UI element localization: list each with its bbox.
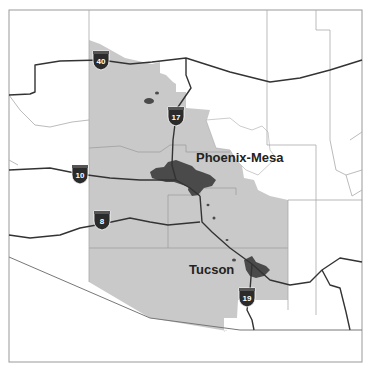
city-label-tucson: Tucson: [189, 262, 234, 277]
shield-i10-number: 10: [76, 171, 85, 180]
shield-i10: 10: [72, 165, 88, 184]
shield-i40: 40: [93, 51, 109, 70]
map: 40 17 10 8 19 Phoenix-Mesa Tucson: [0, 0, 373, 375]
shield-i8: 8: [94, 211, 110, 230]
shield-i17: 17: [168, 107, 184, 126]
city-label-phoenix-mesa: Phoenix-Mesa: [196, 150, 284, 165]
shield-i19-number: 19: [243, 294, 252, 303]
shield-i40-number: 40: [97, 57, 106, 66]
shield-i8-number: 8: [100, 217, 105, 226]
shield-i17-number: 17: [172, 113, 181, 122]
shield-i19: 19: [239, 288, 255, 307]
